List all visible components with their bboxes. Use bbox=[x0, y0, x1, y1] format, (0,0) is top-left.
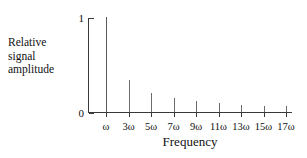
spectral-line bbox=[241, 105, 242, 112]
spectral-line bbox=[264, 106, 265, 112]
x-axis-tick bbox=[129, 113, 130, 117]
y-axis-title: Relative signal amplitude bbox=[8, 36, 76, 77]
spectral-line bbox=[219, 103, 220, 112]
x-axis-tick-label: 7ω bbox=[167, 122, 179, 133]
y-axis-title-line-3: amplitude bbox=[8, 63, 76, 77]
x-axis-tick bbox=[106, 113, 107, 117]
x-axis-tick bbox=[286, 113, 287, 117]
spectrum-figure: Relative signal amplitude 01 ω3ω5ω7ω9ω11… bbox=[0, 0, 307, 158]
spectral-line bbox=[196, 101, 197, 112]
x-axis-tick-label: 17ω bbox=[277, 122, 294, 133]
y-axis-line bbox=[88, 18, 89, 113]
x-axis-tick-label: 13ω bbox=[232, 122, 249, 133]
x-axis-tick bbox=[264, 113, 265, 117]
x-axis-tick-label: 5ω bbox=[145, 122, 157, 133]
spectral-line bbox=[129, 80, 130, 112]
y-axis-tick-label: 1 bbox=[79, 13, 85, 24]
y-axis-tick-label: 0 bbox=[79, 108, 85, 119]
y-axis-tick bbox=[89, 18, 94, 19]
spectral-line bbox=[286, 106, 287, 112]
x-axis-tick bbox=[196, 113, 197, 117]
x-axis-tick bbox=[151, 113, 152, 117]
x-axis-tick bbox=[241, 113, 242, 117]
x-axis-tick-label: 15ω bbox=[255, 122, 272, 133]
x-axis-tick bbox=[174, 113, 175, 117]
spectral-line bbox=[106, 17, 107, 112]
x-axis-tick bbox=[219, 113, 220, 117]
y-axis-title-line-1: Relative bbox=[8, 36, 76, 50]
x-axis-tick-label: ω bbox=[103, 122, 110, 133]
x-axis-tick-label: 11ω bbox=[210, 122, 227, 133]
y-axis-title-line-2: signal bbox=[8, 50, 76, 64]
x-axis-tick-label: 9ω bbox=[190, 122, 202, 133]
x-axis-line bbox=[88, 112, 292, 113]
spectral-line bbox=[174, 98, 175, 112]
plot-area: 01 ω3ω5ω7ω9ω11ω13ω15ω17ω bbox=[88, 18, 292, 113]
x-axis-tick-label: 3ω bbox=[122, 122, 134, 133]
x-axis-title: Frequency bbox=[88, 135, 292, 148]
y-axis-tick bbox=[89, 113, 94, 114]
spectral-line bbox=[151, 93, 152, 112]
